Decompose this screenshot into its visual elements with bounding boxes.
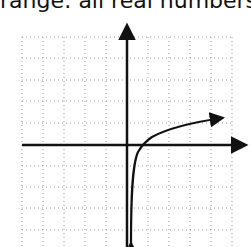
log-curve <box>131 118 222 244</box>
graph <box>0 0 251 247</box>
